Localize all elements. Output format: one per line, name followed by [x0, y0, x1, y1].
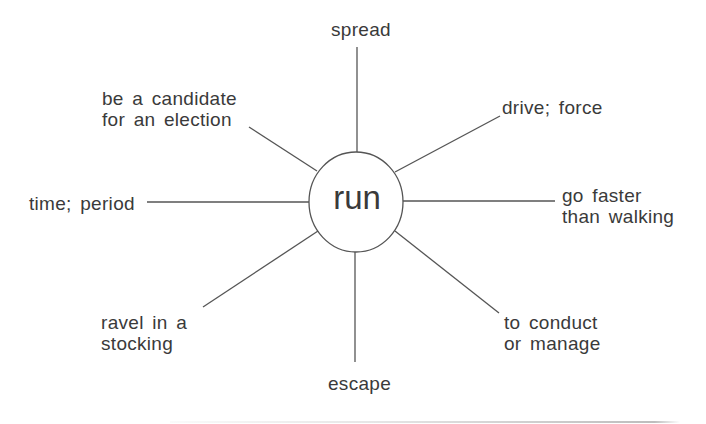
- meaning-top-left-line1: be a candidate: [102, 88, 237, 109]
- meaning-right: go faster than walking: [562, 185, 674, 227]
- bottom-rule: [170, 421, 680, 423]
- meaning-right-line1: go faster: [562, 185, 674, 206]
- meaning-top-left: be a candidate for an election: [102, 88, 237, 130]
- meaning-bottom-left-line2: stocking: [101, 333, 187, 354]
- meaning-bottom: escape: [328, 373, 391, 394]
- meaning-top-left-line2: for an election: [102, 109, 237, 130]
- meaning-bottom-right-line1: to conduct: [504, 312, 601, 333]
- meaning-bottom-left: ravel in a stocking: [101, 312, 187, 354]
- center-word: run: [309, 178, 405, 218]
- meaning-top: spread: [331, 19, 391, 40]
- meaning-bottom-left-line1: ravel in a: [101, 312, 187, 333]
- meaning-right-line2: than walking: [562, 206, 674, 227]
- spoke-bottom-left: [203, 231, 318, 307]
- meaning-left: time; period: [29, 193, 135, 214]
- spoke-bottom-right: [395, 231, 499, 313]
- meaning-bottom-right: to conduct or manage: [504, 312, 601, 354]
- meaning-bottom-right-line2: or manage: [504, 333, 601, 354]
- spoke-top-left: [249, 127, 317, 171]
- meaning-top-right: drive; force: [502, 97, 603, 118]
- spoke-top-right: [395, 116, 500, 172]
